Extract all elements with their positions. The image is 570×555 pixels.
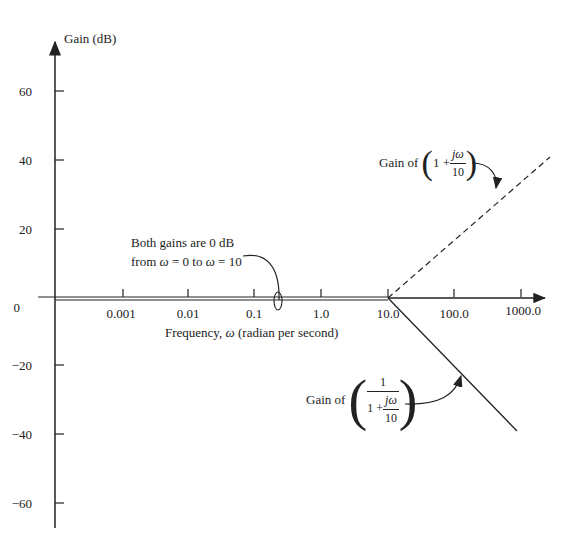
note-both-gains-line1: Both gains are 0 dB <box>131 236 234 249</box>
y-tick-label: 60 <box>2 85 32 98</box>
note-pole-gain: Gain of ( 11 +jω10) <box>306 372 418 428</box>
bode-plot-lines <box>0 0 570 555</box>
x-axis-label: Frequency, ω (radian per second) <box>165 326 338 339</box>
y-tick-label: 40 <box>2 154 32 167</box>
x-tick-label: 10.0 <box>377 307 400 320</box>
x-tick-label: 100.0 <box>439 307 468 320</box>
x-tick-label: 0.001 <box>106 307 135 320</box>
x-tick-label: 0.1 <box>246 307 262 320</box>
x-tick-label: 1000.0 <box>505 304 541 317</box>
y-axis-label: Gain (dB) <box>64 32 116 45</box>
y-tick-label: 20 <box>2 223 32 236</box>
y-tick-label: 0 <box>0 301 20 314</box>
note-zero-gain: Gain of (1 + jω10) <box>379 146 477 180</box>
x-ticks <box>123 289 521 297</box>
x-tick-label: 1.0 <box>313 307 329 320</box>
y-tick-label: −60 <box>2 497 32 510</box>
note-both-gains-line2: from ω = 0 to ω = 10 <box>131 255 242 268</box>
y-tick-label: −40 <box>2 428 32 441</box>
x-tick-label: 0.01 <box>177 307 200 320</box>
y-tick-label: −20 <box>2 359 32 372</box>
